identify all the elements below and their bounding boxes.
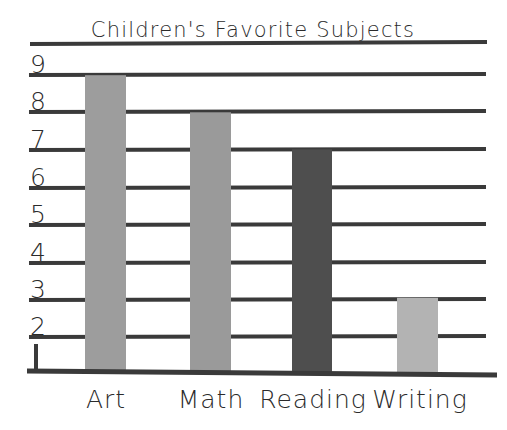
x-tick-label-writing: Writing — [372, 385, 467, 414]
title-underline — [30, 42, 487, 44]
gridline-9 — [29, 74, 486, 75]
bar-writing — [397, 298, 438, 372]
y-tick-label-9: 9 — [30, 50, 46, 79]
x-tick-label-art: Art — [86, 385, 126, 414]
bar-chart-figure: Children's Favorite Subjects 9 8 7 6 5 4… — [0, 0, 507, 430]
x-tick-label-math: Math — [178, 385, 245, 414]
chart-title: Children's Favorite Subjects — [91, 18, 415, 42]
y-tick-label-4: 4 — [30, 238, 46, 267]
y-tick-label-3: 3 — [30, 275, 46, 304]
x-tick-label-reading: Reading — [259, 385, 367, 414]
bar-math — [190, 112, 231, 372]
y-tick-label-7: 7 — [30, 125, 46, 154]
bar-reading — [292, 149, 332, 372]
chart-container: Children's Favorite Subjects 9 8 7 6 5 4… — [0, 0, 507, 430]
bar-art — [85, 75, 126, 372]
y-tick-label-8: 8 — [30, 87, 46, 116]
y-tick-label-5: 5 — [30, 200, 46, 229]
y-tick-label-6: 6 — [30, 163, 46, 192]
y-tick-label-2: 2 — [30, 312, 46, 341]
